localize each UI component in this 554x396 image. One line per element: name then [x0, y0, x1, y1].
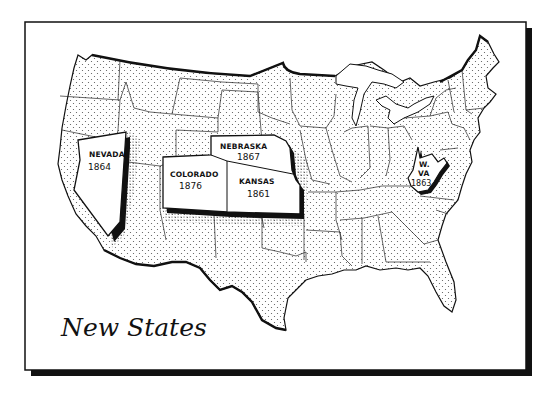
kansas-year: 1861 [247, 189, 270, 199]
colorado-year: 1876 [179, 181, 202, 191]
nebraska-year: 1867 [237, 152, 260, 162]
wva-year: 1863 [411, 179, 431, 188]
nebraska-label: NEBRASKA [220, 142, 267, 151]
wva-label-line1: W. [419, 160, 430, 169]
nevada-year: 1864 [88, 162, 111, 172]
kansas-label: KANSAS [239, 177, 275, 186]
colorado-label: COLORADO [170, 170, 219, 179]
map-card-container: NEVADA 1864 NEBRASKA 1867 COLORADO 1876 … [0, 0, 554, 396]
wva-label-line2: VA [418, 169, 430, 178]
nevada-label: NEVADA [89, 150, 125, 159]
us-map-figure: NEVADA 1864 NEBRASKA 1867 COLORADO 1876 … [0, 0, 554, 396]
map-title: New States [60, 313, 207, 342]
